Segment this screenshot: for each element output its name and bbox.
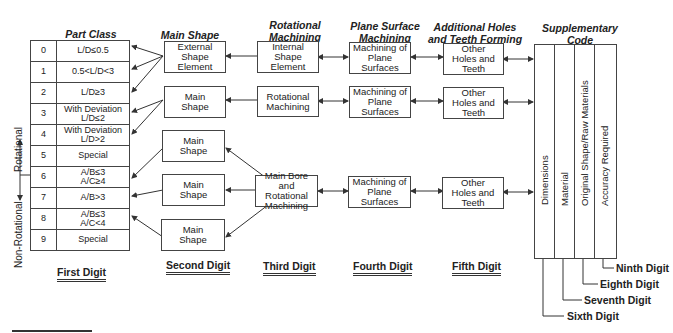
row-label: A/B≤3 A/C≥4	[57, 167, 130, 188]
header-main-shape: Main Shape	[145, 29, 235, 41]
second-digit-box-main-shape: Main Shape	[164, 86, 226, 118]
supp-col-dimensions	[534, 44, 555, 259]
second-digit-box-main-shape: Main Shape	[162, 174, 225, 206]
header-rotational-machining: Rotational Machining	[250, 19, 340, 43]
fourth-digit-box-plane-surfaces: Machining of Plane Surfaces	[348, 176, 411, 208]
fourth-digit-box-plane-surfaces: Machining of Plane Surfaces	[349, 42, 411, 74]
part-class-row: 6A/B≤3 A/C≥4	[31, 167, 130, 188]
part-class-row: 5Special	[31, 146, 130, 167]
row-label: 0.5<L/D<3	[57, 62, 130, 83]
row-label: A/B≤3 A/C<4	[57, 209, 130, 230]
row-digit: 6	[31, 167, 57, 188]
row-digit: 9	[31, 230, 57, 251]
part-class-row: 3With Deviation L/D≤2	[31, 104, 130, 125]
row-digit: 0	[31, 41, 57, 62]
eighth-digit-label: Eighth Digit	[600, 278, 659, 290]
part-class-row: 8A/B≤3 A/C<4	[31, 209, 130, 230]
header-part-class: Part Class	[56, 28, 126, 40]
supp-label-dimensions: Dimensions	[539, 155, 550, 205]
part-class-table: 0L/D≤0.5 10.5<L/D<3 2L/D≥3 3With Deviati…	[30, 40, 130, 251]
header-additional-holes: Additional Holes and Teeth Forming	[420, 21, 530, 45]
fourth-digit-box-plane-surfaces: Machining of Plane Surfaces	[349, 86, 411, 118]
fifth-digit-box-holes-teeth: Other Holes and Teeth	[443, 87, 504, 119]
supp-label-material: Material	[559, 172, 570, 206]
row-label: Special	[57, 146, 130, 167]
part-class-row: 9Special	[31, 230, 130, 251]
row-label: With Deviation L/D>2	[57, 125, 130, 146]
row-label: With Deviation L/D≤2	[57, 104, 130, 125]
part-class-row: 10.5<L/D<3	[31, 62, 130, 83]
row-digit: 5	[31, 146, 57, 167]
rotational-label: Rotational	[13, 127, 24, 172]
second-digit-label: Second Digit	[166, 259, 230, 275]
non-rotational-label: Non-Rotational	[13, 201, 24, 268]
fourth-digit-label: Fourth Digit	[353, 260, 412, 276]
supp-label-accuracy: Accuracy Required	[599, 126, 610, 206]
part-class-row: 2L/D≥3	[31, 83, 130, 104]
sixth-digit-label: Sixth Digit	[567, 310, 619, 322]
second-digit-box-main-shape: Main Shape	[161, 219, 225, 251]
part-class-row: 0L/D≤0.5	[31, 41, 130, 62]
row-digit: 4	[31, 125, 57, 146]
row-digit: 3	[31, 104, 57, 125]
fifth-digit-box-holes-teeth: Other Holes and Teeth	[442, 177, 504, 209]
third-digit-box-internal-shape: Internal Shape Element	[257, 41, 319, 73]
fifth-digit-label: Fifth Digit	[452, 260, 501, 276]
row-digit: 8	[31, 209, 57, 230]
third-digit-box-rotational-machining: Rotational Machining	[257, 86, 319, 117]
fifth-digit-box-holes-teeth: Other Holes and Teeth	[443, 43, 504, 75]
seventh-digit-label: Seventh Digit	[584, 294, 651, 306]
row-digit: 7	[31, 188, 57, 209]
third-digit-label: Third Digit	[263, 260, 316, 276]
header-supplementary-code: Supplementary Code	[530, 22, 630, 46]
second-digit-box-external-shape: External Shape Element	[164, 41, 226, 73]
row-label: Special	[57, 230, 130, 251]
row-digit: 1	[31, 62, 57, 83]
first-digit-label: First Digit	[57, 266, 106, 282]
part-class-row: 7A/B>3	[31, 188, 130, 209]
row-label: L/D≤0.5	[57, 41, 130, 62]
supp-col-material	[554, 44, 575, 259]
third-digit-box-main-bore: Main Bore and Rotational Machining	[255, 175, 318, 207]
part-class-row: 4With Deviation L/D>2	[31, 125, 130, 146]
second-digit-box-main-shape: Main Shape	[162, 130, 225, 162]
ninth-digit-label: Ninth Digit	[616, 262, 669, 274]
row-label: A/B>3	[57, 188, 130, 209]
row-digit: 2	[31, 83, 57, 104]
row-label: L/D≥3	[57, 83, 130, 104]
supp-label-original-shape: Original Shape/Raw Materials	[579, 80, 590, 206]
